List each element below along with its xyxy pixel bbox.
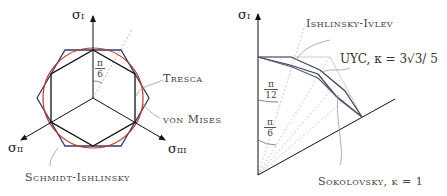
schmidt-leader (50, 148, 58, 166)
schmidt-ishlinsky-label: Schmidt-Ishlinsky (25, 171, 130, 184)
tresca-label: Tresca (163, 72, 203, 85)
sigma-3-axis (93, 98, 165, 140)
boundary-line (258, 99, 395, 175)
right-figure (258, 14, 395, 175)
sigma-1-label-right: σI (238, 7, 250, 22)
angle-label-pi-12: π12 (264, 79, 278, 100)
sigma-2-label: σII (8, 140, 23, 155)
sigma-2-axis (21, 98, 93, 140)
von-mises-leader (143, 104, 160, 118)
angle-arc (93, 81, 102, 83)
sigma-3-label: σIII (168, 141, 186, 156)
left-figure (21, 16, 165, 166)
von-mises-label: von Mises (163, 113, 221, 126)
uyc-label: UYC, κ = 3√3/ 5 (340, 52, 438, 66)
sigma-1-label: σI (72, 7, 84, 22)
angle-label-pi-6-right: π6 (264, 117, 276, 138)
angle-arc (258, 140, 276, 145)
angle-arc (258, 100, 278, 102)
ishlinsky-ivlev-label: Ishlinsky-Ivlev (306, 17, 393, 30)
angle-label-pi-6: π6 (95, 58, 105, 79)
sokolovsky-label: Sokolovsky, κ = 1 (318, 175, 423, 188)
